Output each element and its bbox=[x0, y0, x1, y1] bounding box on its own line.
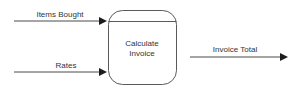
invoice-total-flow: Invoice Total bbox=[190, 45, 288, 61]
items-bought-arrowhead-icon bbox=[99, 17, 107, 25]
rates-flow: Rates bbox=[14, 61, 107, 76]
invoice-total-label: Invoice Total bbox=[213, 45, 258, 54]
diagram-canvas: Items Bought Rates Calculate Invoice Inv… bbox=[0, 0, 297, 100]
process-label-line2: Invoice bbox=[129, 49, 155, 58]
items-bought-label: Items Bought bbox=[36, 10, 84, 19]
calculate-invoice-process: Calculate Invoice bbox=[109, 11, 177, 85]
process-label-line1: Calculate bbox=[125, 39, 159, 48]
invoice-total-arrowhead-icon bbox=[280, 53, 288, 61]
rates-label: Rates bbox=[56, 61, 77, 70]
items-bought-flow: Items Bought bbox=[14, 10, 107, 25]
rates-arrowhead-icon bbox=[99, 68, 107, 76]
